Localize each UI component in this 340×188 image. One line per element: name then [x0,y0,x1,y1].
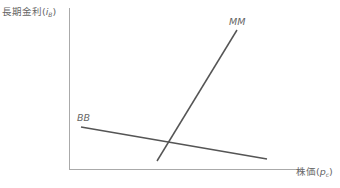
diagram-canvas [0,0,340,188]
y-axis-sub: B [48,11,52,18]
y-axis-label: 長期金利(iB) [2,4,56,18]
y-axis-label-text: 長期金利 [2,6,42,17]
mm-label: MM [229,16,245,27]
mm-curve [157,30,237,161]
bb-label: BB [77,112,90,123]
x-axis-sub: c [326,171,329,178]
x-axis-label-text: 株価 [296,166,316,177]
x-axis-label: 株価(pc) [296,164,333,178]
